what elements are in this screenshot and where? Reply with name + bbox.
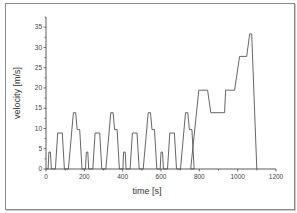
x-tick-label: 200 (79, 173, 90, 180)
x-tick-label: 1000 (230, 173, 245, 180)
y-tick-label: 30 (35, 44, 43, 51)
y-tick-label: 35 (35, 23, 43, 30)
x-tick-label: 600 (156, 173, 167, 180)
axes: 05101520253035020040060080010001200 (35, 17, 284, 180)
y-tick-label: 0 (38, 165, 42, 172)
y-tick-label: 5 (38, 145, 42, 152)
x-tick-label: 400 (117, 173, 128, 180)
x-tick-label: 0 (44, 173, 48, 180)
velocity-series-line (46, 34, 257, 169)
x-axis-title: time [s] (132, 186, 161, 196)
y-tick-label: 25 (35, 64, 43, 71)
x-tick-label: 1200 (269, 173, 284, 180)
y-tick-label: 10 (35, 125, 43, 132)
velocity-time-chart: 05101520253035020040060080010001200 time… (0, 0, 297, 213)
y-axis-title: velocity [m/s] (12, 67, 22, 119)
y-tick-label: 15 (35, 104, 43, 111)
y-tick-label: 20 (35, 84, 43, 91)
x-tick-label: 800 (194, 173, 205, 180)
